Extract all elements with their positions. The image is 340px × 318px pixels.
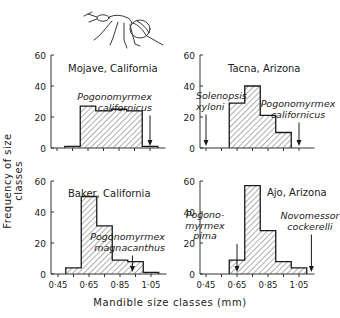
histogram-bar [127,111,143,148]
y-tick-label: 0 [189,144,195,154]
ant-illustration-icon [84,12,163,48]
species-label: californicus [271,109,325,120]
x-tick-label: 1·05 [290,280,309,290]
panel-title: Mojave, California [68,63,158,74]
x-tick-label: 0·45 [197,280,216,290]
x-tick-label: 0·85 [259,280,278,290]
histogram-bar [128,262,144,274]
species-label: magnacanthus [94,242,165,253]
y-tick-label: 40 [35,82,47,92]
histogram-bar [80,106,96,148]
x-tick-label: 0·85 [111,280,130,290]
species-label: myrmex [185,220,225,231]
y-tick-label: 60 [184,51,196,61]
histogram-bar [112,260,128,274]
species-label: Pogono- [186,209,225,220]
species-label: xyloni [195,101,225,112]
y-tick-label: 60 [184,177,196,187]
y-tick-label: 60 [35,51,47,61]
histogram-bar [111,109,127,148]
histogram-bar [245,186,261,274]
x-axis-label: Mandible size classes (mm) [0,297,340,308]
species-label: Solenopsis [196,90,247,101]
y-axis-label: Frequency of size classes [2,116,24,246]
x-tick-label: 0·65 [228,280,247,290]
x-tick-label: 1·05 [142,280,161,290]
panel-title: Ajo, Arizona [267,187,327,198]
y-tick-label: 60 [35,177,47,187]
y-tick-label: 20 [35,113,47,123]
arrow-down-icon [204,140,209,146]
species-label: Pogonomyrmex [261,98,336,109]
histogram-bar [245,86,261,148]
y-tick-label: 20 [35,239,47,249]
y-tick-label: 40 [184,82,196,92]
histogram-bar [276,262,292,274]
x-tick-label: 0·65 [80,280,99,290]
x-tick-label: 0·45 [49,280,68,290]
species-label: californicus [98,102,152,113]
histogram-bar [260,115,276,148]
species-label: Novomessor [280,210,340,221]
y-tick-label: 0 [40,270,46,280]
species-label: pima [192,230,217,241]
arrow-down-icon [148,140,153,146]
species-label: cockerelli [287,221,333,232]
histogram-panel: 02040600·450·650·851·05Ajo, ArizonaPogon… [184,177,340,291]
histogram-panel: 0204060Tacna, ArizonaSolenopsisxyloniPog… [184,51,336,154]
histogram-bar [229,103,245,148]
species-label: Pogonomyrmex [90,231,165,242]
histogram-panel: 02040600·450·650·851·05Baker, California… [35,177,167,291]
arrow-down-icon [297,140,302,146]
histogram-panel: 0204060Mojave, CaliforniaPogonomyrmexcal… [35,51,166,154]
y-tick-label: 20 [184,113,196,123]
panel-title: Tacna, Arizona [227,63,300,74]
y-tick-label: 0 [40,144,46,154]
histogram-bar [96,111,112,148]
arrow-down-icon [309,266,314,272]
panel-title: Baker, California [68,188,151,199]
y-tick-label: 0 [189,270,195,280]
histogram-bar [260,231,276,274]
y-tick-label: 40 [35,208,47,218]
species-label: Pogonomyrmex [77,91,152,102]
figure: 0204060Mojave, CaliforniaPogonomyrmexcal… [0,0,340,318]
histogram-bar [66,268,82,274]
histogram-bar [291,268,307,274]
histogram-bar [276,133,292,149]
chart-canvas: 0204060Mojave, CaliforniaPogonomyrmexcal… [0,0,340,318]
